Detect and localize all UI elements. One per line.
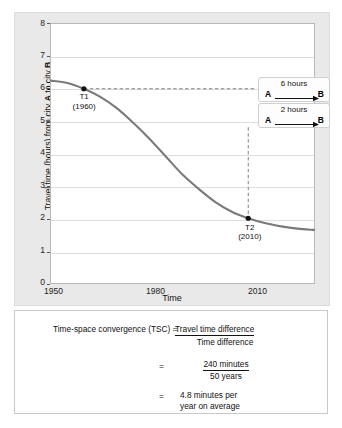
formula-row2-denominator-text: 50 years — [210, 371, 242, 382]
t2-label-id: T2 — [226, 223, 274, 233]
callout-6-hours-label: 6 hours — [259, 79, 329, 88]
plot-svg — [51, 24, 314, 283]
chart-panel: Travel time (hours) from city A to city … — [14, 12, 330, 306]
y-tick-6: 6 — [31, 83, 45, 92]
callout-2-hours-city-a: A — [265, 115, 271, 125]
y-tick-2: 2 — [31, 213, 45, 222]
t1-marker — [81, 86, 86, 91]
x-axis-title: Time — [15, 293, 329, 303]
callout-6-hours-city-a: A — [265, 89, 271, 99]
t2-label: T2 (2010) — [226, 223, 274, 242]
y-tick-1: 1 — [31, 246, 45, 255]
formula-lhs: Time-space convergence (TSC) = — [53, 324, 177, 335]
formula-box: Time-space convergence (TSC) = Travel ti… — [14, 310, 328, 414]
t2-label-year: (2010) — [226, 232, 274, 242]
figure-root: Travel time (hours) from city A to city … — [0, 0, 342, 428]
y-tickmark-0 — [47, 284, 50, 285]
formula-row3-line1: 4.8 minutes per — [180, 390, 237, 401]
formula-row2-numerator: 240 minutes — [180, 359, 272, 371]
plot-area: T1 (1960) T2 (2010) 6 hours A B 2 hour — [50, 23, 315, 284]
callout-6-hours: 6 hours A B — [258, 77, 330, 102]
t2-marker — [246, 216, 251, 221]
y-tick-0: 0 — [31, 278, 45, 287]
formula-row1-denominator: Time difference — [175, 337, 275, 348]
formula-row2-numerator-text: 240 minutes — [203, 359, 248, 371]
formula-equals-2: = — [159, 361, 164, 371]
formula-equals-3: = — [159, 391, 164, 401]
formula-row2-denominator: 50 years — [180, 371, 272, 382]
y-tick-8: 8 — [31, 19, 45, 28]
formula-row3-line2: year on average — [180, 401, 240, 412]
y-tick-7: 7 — [31, 51, 45, 60]
t1-label-year: (1960) — [60, 102, 108, 112]
t1-label: T1 (1960) — [60, 92, 108, 111]
formula-row1-numerator: Travel time difference — [175, 324, 254, 336]
y-tick-4: 4 — [31, 148, 45, 157]
arrow-right-icon — [275, 95, 319, 102]
t1-label-id: T1 — [60, 92, 108, 102]
y-tick-3: 3 — [31, 181, 45, 190]
arrow-right-icon — [275, 121, 319, 128]
callout-2-hours: 2 hours A B — [258, 103, 330, 128]
callout-2-hours-label: 2 hours — [259, 105, 329, 114]
y-tick-5: 5 — [31, 116, 45, 125]
formula-row1-numerator-text: Travel time difference — [175, 324, 254, 336]
formula-row1-denominator-text: Time difference — [197, 337, 254, 348]
